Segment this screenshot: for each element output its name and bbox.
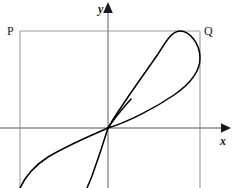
x-axis-arrowhead-icon: [221, 123, 231, 133]
y-axis: [103, 2, 113, 188]
curve-branch-lower-left: [20, 128, 108, 188]
x-axis-label: x: [220, 135, 226, 147]
curve-branch-lower-steep: [87, 128, 108, 188]
y-axis-label: y: [98, 3, 103, 15]
plotted-curve: [20, 31, 200, 188]
x-axis: [0, 123, 231, 133]
math-figure-canvas: y x P Q: [0, 0, 234, 188]
curve-loop: [108, 31, 200, 128]
bounding-rectangle-PQ: [20, 31, 200, 188]
corner-label-q: Q: [204, 25, 213, 37]
y-axis-arrowhead-icon: [103, 2, 113, 13]
corner-label-p: P: [7, 25, 14, 37]
figure-svg: [0, 0, 234, 188]
